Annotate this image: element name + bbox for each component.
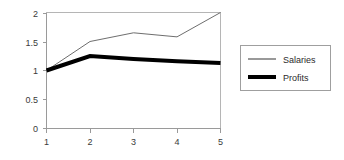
y-tick-label: 1 [33,66,38,76]
y-tick-label: 1.5 [25,38,38,48]
x-tick-label: 4 [174,137,179,147]
x-axis-ticks [47,129,221,133]
y-tick-label: 2 [33,9,38,19]
plot-area-frame [47,13,221,129]
x-tick-label: 1 [44,137,49,147]
x-axis-tick-labels: 1 2 3 4 5 [44,137,223,147]
legend-label-profits: Profits [283,73,309,83]
y-tick-label: 0.5 [25,95,38,105]
legend-frame [241,46,331,91]
line-chart: 2 1.5 1 0.5 0 1 2 3 4 5 Salaries P [0,0,344,160]
series-line-profits [47,56,221,71]
x-tick-label: 3 [131,137,136,147]
y-tick-label: 0 [33,124,38,134]
legend-label-salaries: Salaries [283,55,316,65]
x-tick-label: 5 [218,137,223,147]
y-axis-ticks [43,14,47,129]
legend: Salaries Profits [241,46,331,91]
y-axis-tick-labels: 2 1.5 1 0.5 0 [25,9,38,134]
chart-canvas: 2 1.5 1 0.5 0 1 2 3 4 5 Salaries P [0,0,344,160]
x-tick-label: 2 [87,137,92,147]
